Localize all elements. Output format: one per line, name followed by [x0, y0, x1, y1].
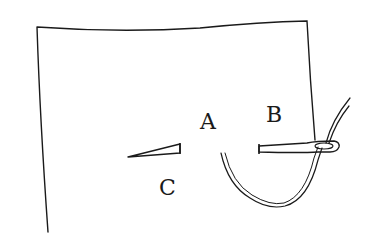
stitch-c-icon [128, 144, 180, 157]
stitch-diagram: A B C [0, 0, 372, 246]
thread-loop-icon [221, 148, 322, 207]
label-a: A [200, 111, 216, 133]
label-c: C [159, 177, 176, 199]
label-b: B [266, 104, 282, 126]
thread-tail-icon [326, 98, 350, 143]
diagram-drawing [0, 0, 372, 246]
